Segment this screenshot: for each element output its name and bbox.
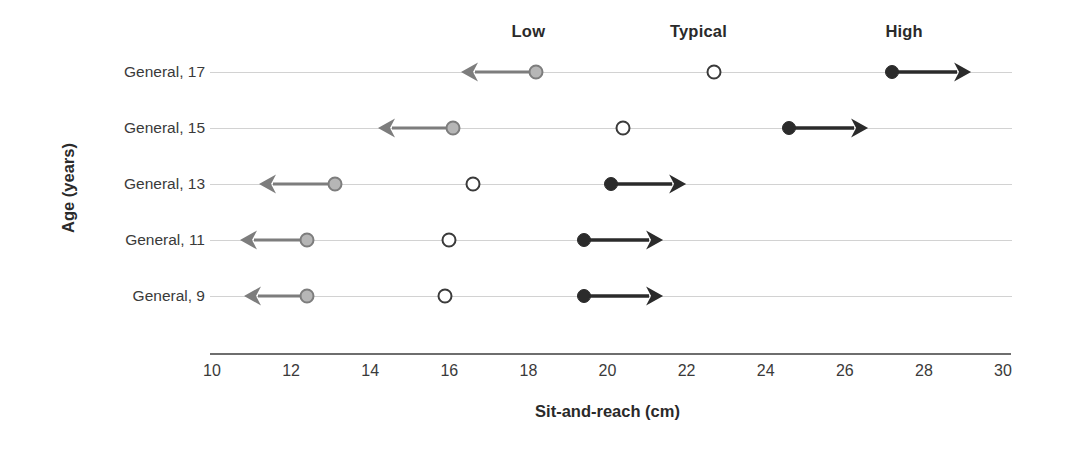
x-axis-tick-label: 18: [519, 362, 537, 380]
x-axis-tick-label: 16: [440, 362, 458, 380]
x-axis-tick-label: 26: [836, 362, 854, 380]
data-point-high: [577, 289, 591, 303]
data-point-typical: [442, 233, 457, 248]
data-point-low: [299, 289, 314, 304]
column-header-high: High: [885, 22, 922, 41]
data-point-high: [604, 177, 618, 191]
data-point-low: [299, 233, 314, 248]
grid-line: [210, 128, 1012, 129]
x-axis-tick-label: 14: [361, 362, 379, 380]
x-axis-tick-label: 20: [599, 362, 617, 380]
arrow-low-row-1: [378, 117, 453, 139]
arrow-high-row-4: [584, 285, 663, 307]
x-axis-tick-label: 30: [994, 362, 1012, 380]
arrow-low-row-3: [240, 229, 307, 251]
data-point-typical: [466, 177, 481, 192]
arrow-high-row-1: [789, 117, 868, 139]
data-point-high: [885, 65, 899, 79]
x-axis-title: Sit-and-reach (cm): [535, 402, 680, 421]
arrow-high-row-0: [892, 61, 971, 83]
x-axis-tick-label: 12: [282, 362, 300, 380]
data-point-typical: [707, 65, 722, 80]
arrow-high-row-2: [611, 173, 686, 195]
arrow-low-row-2: [259, 173, 334, 195]
x-axis-line: [210, 353, 1011, 355]
y-axis-tick-label: General, 17: [124, 63, 205, 81]
y-axis-tick-label: General, 11: [125, 231, 205, 249]
y-axis-tick-label: General, 9: [133, 287, 205, 305]
arrow-low-row-0: [461, 61, 536, 83]
x-axis-tick-label: 28: [915, 362, 933, 380]
y-axis-tick-label: General, 13: [124, 175, 205, 193]
chart-canvas: LowTypicalHigh Age (years) General, 17Ge…: [0, 0, 1066, 453]
data-point-typical: [616, 121, 631, 136]
column-header-low: Low: [512, 22, 546, 41]
data-point-low: [446, 121, 461, 136]
arrow-low-row-4: [244, 285, 307, 307]
arrow-high-row-3: [584, 229, 663, 251]
x-axis-tick-label: 24: [757, 362, 775, 380]
data-point-high: [577, 233, 591, 247]
data-point-high: [782, 121, 796, 135]
data-point-low: [529, 65, 544, 80]
column-header-typical: Typical: [670, 22, 727, 41]
y-axis-title: Age (years): [59, 143, 78, 233]
data-point-typical: [438, 289, 453, 304]
data-point-low: [327, 177, 342, 192]
y-axis-tick-label: General, 15: [124, 119, 205, 137]
x-axis-tick-label: 22: [678, 362, 696, 380]
x-axis-tick-label: 10: [203, 362, 221, 380]
